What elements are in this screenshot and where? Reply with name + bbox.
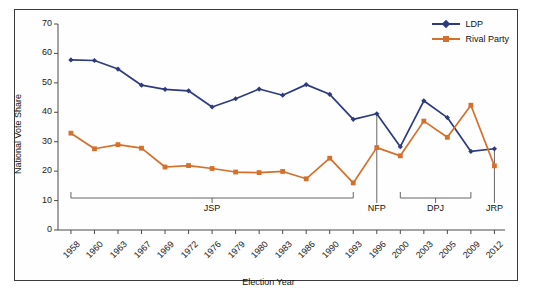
y-tick-label: 0 (24, 224, 52, 234)
data-point (280, 93, 285, 98)
data-point (162, 87, 167, 92)
annotation-label: JSP (187, 203, 237, 213)
y-tick-label: 50 (24, 77, 52, 87)
y-tick-label: 70 (24, 18, 52, 28)
data-point (233, 96, 238, 101)
data-point (468, 103, 473, 108)
annotation-label: JRP (469, 203, 519, 213)
data-point (374, 145, 379, 150)
data-point (327, 156, 332, 161)
data-point (257, 86, 262, 91)
legend-item-ldp: LDP (432, 16, 509, 31)
data-point (210, 166, 215, 171)
data-point (139, 146, 144, 151)
y-tick-label: 30 (24, 136, 52, 146)
data-point (92, 58, 97, 63)
data-point (69, 131, 74, 136)
legend-item-rival-party: Rival Party (432, 31, 509, 46)
data-point (92, 146, 97, 151)
data-point (445, 135, 450, 140)
data-point (398, 153, 403, 158)
data-point (351, 181, 356, 186)
data-point (186, 163, 191, 168)
series-group (68, 57, 497, 185)
annotation-label: DPJ (411, 203, 461, 213)
data-point (492, 163, 497, 168)
data-point (233, 170, 238, 175)
y-tick-label: 40 (24, 106, 52, 116)
annotation-group (71, 114, 494, 203)
legend-label: Rival Party (465, 34, 509, 44)
data-point (304, 176, 309, 181)
data-point (68, 57, 73, 62)
chart-legend: LDPRival Party (432, 16, 509, 46)
x-axis-title: Election Year (0, 277, 537, 287)
y-tick-label: 20 (24, 165, 52, 175)
y-tick-label: 60 (24, 47, 52, 57)
y-axis-title: National Vote Share (13, 94, 23, 174)
square-marker-icon (432, 34, 460, 44)
data-point (492, 146, 497, 151)
y-tick-label: 10 (24, 195, 52, 205)
data-point (257, 170, 262, 175)
series-line-ldp (71, 60, 494, 152)
data-point (304, 82, 309, 87)
data-point (116, 142, 121, 147)
data-point (421, 119, 426, 124)
data-point (280, 169, 285, 174)
legend-label: LDP (465, 19, 483, 29)
annotation-label: NFP (352, 203, 402, 213)
data-point (163, 165, 168, 170)
diamond-marker-icon (432, 19, 460, 29)
